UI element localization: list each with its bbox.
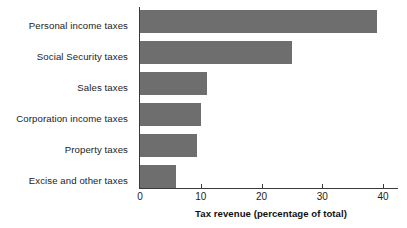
category-label: Corporation income taxes xyxy=(0,113,128,124)
category-label: Sales taxes xyxy=(0,82,128,93)
category-label: Property taxes xyxy=(0,144,128,155)
bar-sales-taxes xyxy=(140,72,207,95)
category-label: Personal income taxes xyxy=(0,20,128,31)
x-axis-tick-label: 40 xyxy=(368,191,398,202)
x-axis-tick xyxy=(383,184,384,189)
x-axis-tick xyxy=(201,184,202,189)
bar-property-taxes xyxy=(140,134,197,157)
x-axis-title: Tax revenue (percentage of total) xyxy=(140,208,402,219)
x-axis-tick-label: 0 xyxy=(125,191,155,202)
y-axis-line xyxy=(139,7,140,188)
bar-social-security-taxes xyxy=(140,41,292,64)
x-axis-tick xyxy=(262,184,263,189)
x-axis-tick-label: 10 xyxy=(186,191,216,202)
category-label: Excise and other taxes xyxy=(0,175,128,186)
bar-personal-income-taxes xyxy=(140,10,377,33)
x-axis-tick xyxy=(322,184,323,189)
x-axis-tick-label: 20 xyxy=(247,191,277,202)
category-label: Social Security taxes xyxy=(0,51,128,62)
bar-corporation-income-taxes xyxy=(140,103,201,126)
bar-chart: Personal income taxes Social Security ta… xyxy=(0,0,407,228)
plot-area xyxy=(140,8,398,188)
category-axis-labels: Personal income taxes Social Security ta… xyxy=(0,8,132,188)
bar-excise-and-other-taxes xyxy=(140,165,176,188)
x-axis-tick-label: 30 xyxy=(307,191,337,202)
x-axis-line xyxy=(139,188,398,189)
